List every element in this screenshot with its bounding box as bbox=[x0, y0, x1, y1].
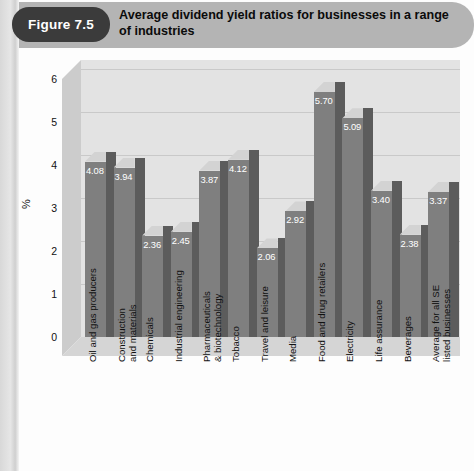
bar-top-face bbox=[314, 82, 335, 92]
bar-value-label: 3.94 bbox=[115, 171, 133, 182]
bar-value-label: 5.09 bbox=[343, 121, 361, 132]
y-tick-label: 5 bbox=[29, 116, 57, 128]
y-tick-label: 0 bbox=[29, 331, 57, 343]
bar-value-label: 3.40 bbox=[372, 194, 390, 205]
bar: 2.92 bbox=[285, 50, 306, 337]
bar-value-label: 4.08 bbox=[86, 165, 104, 176]
bar-top-face bbox=[199, 161, 220, 171]
x-tick-label: Beverages bbox=[403, 316, 414, 362]
bar: 3.40 bbox=[371, 50, 392, 337]
bar-top-face bbox=[257, 238, 278, 248]
bar: 2.38 bbox=[400, 50, 421, 337]
bar-value-label: 2.38 bbox=[401, 238, 419, 249]
bar-value-label: 2.36 bbox=[143, 239, 161, 250]
x-tick-label: Chemicals bbox=[145, 317, 156, 362]
figure-sheet: Figure 7.5 Average dividend yield ratios… bbox=[19, 0, 474, 471]
bar-top-face bbox=[142, 226, 163, 236]
y-tick-label: 6 bbox=[29, 73, 57, 85]
figure-number-badge: Figure 7.5 bbox=[12, 7, 110, 42]
bar-value-label: 3.37 bbox=[429, 195, 447, 206]
y-tick-label: 3 bbox=[29, 202, 57, 214]
x-tick-label: Electricity bbox=[345, 321, 356, 362]
x-tick-label: Construction and materials bbox=[117, 304, 138, 362]
chart-container: 0123456 % 4.083.942.362.453.874.122.062.… bbox=[19, 50, 474, 471]
bar-front-face bbox=[342, 118, 363, 337]
y-axis-label: % bbox=[20, 199, 32, 209]
bar: 4.12 bbox=[228, 50, 249, 337]
x-tick-label: Tobacco bbox=[231, 326, 242, 362]
bar-top-face bbox=[400, 225, 421, 235]
bar-value-label: 2.45 bbox=[172, 235, 190, 246]
x-tick-label: Average for all SE listed businesses bbox=[431, 285, 452, 362]
bar: 2.36 bbox=[142, 50, 163, 337]
page-scan-edge bbox=[0, 0, 19, 471]
bar-top-face bbox=[342, 108, 363, 118]
bar-value-label: 2.06 bbox=[258, 251, 276, 262]
figure-title: Average dividend yield ratios for busine… bbox=[119, 8, 455, 39]
bar-top-face bbox=[171, 222, 192, 232]
bar-top-face bbox=[371, 181, 392, 191]
bar-front-face bbox=[285, 211, 306, 337]
bar-value-label: 5.70 bbox=[315, 95, 333, 106]
bar-top-face bbox=[85, 152, 106, 162]
bar-top-face bbox=[114, 158, 135, 168]
x-tick-label: Media bbox=[288, 336, 299, 362]
x-tick-label: Travel and leisure bbox=[260, 286, 271, 362]
bar: 5.09 bbox=[342, 50, 363, 337]
x-tick-label: Food and drug retailers bbox=[317, 263, 328, 362]
x-tick-label: Oil and gas producers bbox=[88, 268, 99, 362]
y-tick-label: 1 bbox=[29, 288, 57, 300]
x-tick-label: Life assurance bbox=[374, 300, 385, 362]
bar-value-label: 4.12 bbox=[229, 163, 247, 174]
bar-front-face bbox=[228, 160, 249, 337]
y-tick-label: 2 bbox=[29, 245, 57, 257]
x-tick-label: Industrial engineering bbox=[174, 270, 185, 362]
bar-value-label: 3.87 bbox=[200, 174, 218, 185]
bar-top-face bbox=[228, 150, 249, 160]
x-tick-label: Pharmaceuticals & biotechnology bbox=[202, 291, 223, 362]
bar: 3.94 bbox=[114, 50, 135, 337]
plot-left-wall bbox=[62, 60, 81, 356]
bar-top-face bbox=[285, 201, 306, 211]
bar-value-label: 2.92 bbox=[286, 214, 304, 225]
bar-top-face bbox=[428, 182, 449, 192]
figure-header: Figure 7.5 Average dividend yield ratios… bbox=[19, 2, 474, 48]
y-tick-label: 4 bbox=[29, 159, 57, 171]
